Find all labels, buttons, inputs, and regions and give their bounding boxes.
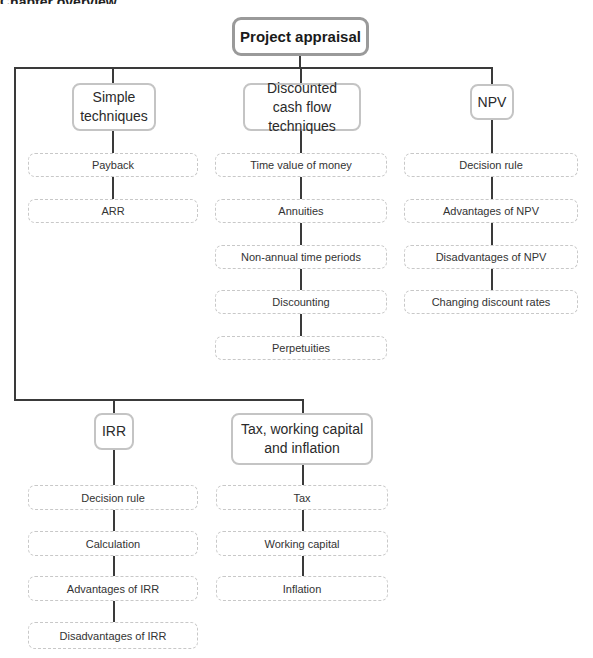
- root-node: Project appraisal: [232, 17, 369, 56]
- leaf-advantages-of-npv: Advantages of NPV: [404, 199, 578, 223]
- npv-leaf-connector: [491, 175, 493, 300]
- top-horizontal-connector: [14, 67, 493, 69]
- irr-leaf-connector: [113, 510, 115, 625]
- leaf-working-capital: Working capital: [216, 531, 388, 556]
- leaf-disadvantages-of-irr: Disadvantages of IRR: [28, 622, 198, 649]
- leaf-non-annual-time-periods: Non-annual time periods: [215, 245, 387, 269]
- branch-tax-wc-inflation: Tax, working capital and inflation: [231, 413, 373, 465]
- branch-irr: IRR: [94, 413, 134, 450]
- leaf-perpetuities: Perpetuities: [215, 336, 387, 360]
- leaf-disadvantages-of-npv: Disadvantages of NPV: [404, 245, 578, 269]
- leaf-discounting: Discounting: [215, 290, 387, 314]
- branch-simple-techniques: Simple techniques: [72, 83, 156, 131]
- leaf-tax: Tax: [216, 485, 388, 510]
- branch-npv: NPV: [470, 84, 514, 120]
- branch-dcf-techniques: Discounted cash flow techniques: [243, 83, 361, 131]
- leaf-payback: Payback: [28, 153, 198, 177]
- leaf-irr-decision-rule: Decision rule: [28, 485, 198, 510]
- leaf-time-value-of-money: Time value of money: [215, 153, 387, 177]
- cut-off-heading: Chapter overview: [0, 0, 117, 4]
- bottom-horizontal-connector: [14, 399, 304, 401]
- leaf-changing-discount-rates: Changing discount rates: [404, 290, 578, 314]
- leaf-npv-decision-rule: Decision rule: [404, 153, 578, 177]
- leaf-calculation: Calculation: [28, 531, 198, 556]
- leaf-arr: ARR: [28, 199, 198, 223]
- leaf-annuities: Annuities: [215, 199, 387, 223]
- leaf-inflation: Inflation: [216, 576, 388, 601]
- simple-leaf-connector: [112, 175, 114, 200]
- leaf-advantages-of-irr: Advantages of IRR: [28, 576, 198, 601]
- left-vertical-connector: [14, 67, 16, 401]
